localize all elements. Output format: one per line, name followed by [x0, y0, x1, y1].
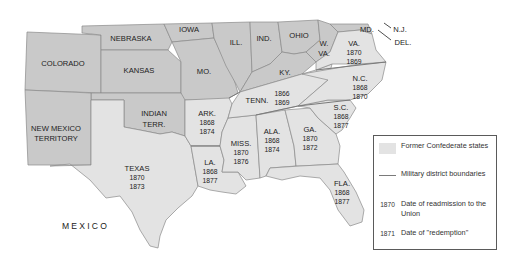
- label-alabama: ALA. 1868 1874: [264, 127, 280, 153]
- svg-text:1868: 1868: [264, 137, 279, 144]
- label-virginia: VA. 1870 1869: [346, 39, 361, 65]
- legend-item-confederate: Former Confederate states: [374, 141, 493, 154]
- svg-text:1869: 1869: [346, 58, 361, 65]
- label-illinois: ILL.: [230, 38, 243, 47]
- svg-text:1868: 1868: [334, 189, 349, 196]
- legend-text: Military district boundaries: [401, 169, 493, 179]
- svg-text:1868: 1868: [333, 113, 348, 120]
- svg-text:1877: 1877: [334, 198, 349, 205]
- svg-text:1870: 1870: [129, 174, 144, 181]
- district-line-sample: [379, 175, 396, 176]
- svg-text:1874: 1874: [264, 146, 279, 153]
- legend-item-redemption: 1871 Date of "redemption": [374, 228, 493, 238]
- svg-text:1877: 1877: [333, 122, 348, 129]
- svg-text:1876: 1876: [233, 158, 248, 165]
- label-new-jersey: N.J.: [393, 25, 407, 34]
- svg-text:1868: 1868: [202, 168, 217, 175]
- legend-text: Date of readmission to the Union: [401, 199, 493, 219]
- label-mississippi: MISS. 1870 1876: [231, 139, 252, 165]
- svg-text:1874: 1874: [199, 128, 214, 135]
- legend-key-year: 1870: [380, 201, 395, 208]
- svg-text:FLA.: FLA.: [334, 179, 350, 188]
- label-florida: FLA. 1868 1877: [334, 179, 350, 205]
- svg-text:1870: 1870: [302, 135, 317, 142]
- svg-text:1868: 1868: [352, 84, 367, 91]
- svg-text:1870: 1870: [346, 49, 361, 56]
- label-mexico: MEXICO: [62, 221, 109, 231]
- svg-text:1872: 1872: [302, 144, 317, 151]
- svg-text:1870: 1870: [352, 93, 367, 100]
- label-indiana: IND.: [256, 34, 271, 43]
- label-maryland: MD.: [360, 25, 374, 34]
- legend-item-district: Military district boundaries: [374, 169, 493, 179]
- svg-text:TENN.: TENN.: [246, 96, 269, 105]
- map-legend: Former Confederate states Military distr…: [373, 135, 497, 250]
- label-new-mexico-2: TERRITORY: [34, 134, 78, 143]
- legend-item-readmission: 1870 Date of readmission to the Union: [374, 199, 493, 219]
- svg-text:N.C.: N.C.: [352, 74, 367, 83]
- label-west-virginia-2: VA.: [318, 49, 330, 58]
- label-georgia: GA. 1870 1872: [302, 125, 317, 151]
- label-arkansas: ARK. 1868 1874: [198, 109, 216, 135]
- svg-text:LA.: LA.: [204, 158, 215, 167]
- svg-text:GA.: GA.: [303, 125, 316, 134]
- confederate-swatch: [379, 143, 396, 154]
- svg-text:1877: 1877: [202, 177, 217, 184]
- label-kansas: KANSAS: [124, 66, 155, 75]
- label-missouri: MO.: [197, 67, 211, 76]
- label-indian-territory-2: TERR.: [143, 120, 166, 129]
- label-south-carolina: S.C. 1868 1877: [333, 103, 348, 129]
- svg-text:1870: 1870: [233, 149, 248, 156]
- label-indian-territory-1: INDIAN: [141, 109, 167, 118]
- svg-text:MISS.: MISS.: [231, 139, 252, 148]
- legend-text: Date of "redemption": [401, 228, 493, 238]
- label-north-carolina: N.C. 1868 1870: [352, 74, 367, 100]
- label-nebraska: NEBRASKA: [110, 34, 152, 43]
- label-new-mexico-1: NEW MEXICO: [31, 124, 81, 133]
- label-iowa: IOWA: [179, 25, 200, 34]
- label-ohio: OHIO: [289, 31, 309, 40]
- legend-text: Former Confederate states: [401, 141, 493, 151]
- label-delaware: DEL.: [395, 38, 412, 47]
- svg-text:1873: 1873: [129, 183, 144, 190]
- label-colorado: COLORADO: [41, 59, 85, 68]
- label-louisiana: LA. 1868 1877: [202, 158, 217, 184]
- svg-text:VA.: VA.: [348, 39, 360, 48]
- svg-text:ARK.: ARK.: [198, 109, 216, 118]
- label-kentucky: KY.: [279, 68, 290, 77]
- svg-text:S.C.: S.C.: [334, 103, 349, 112]
- svg-text:TEXAS: TEXAS: [125, 164, 150, 173]
- legend-key-year: 1871: [380, 230, 395, 237]
- label-west-virginia-1: W.: [320, 39, 329, 48]
- svg-text:1866: 1866: [274, 90, 289, 97]
- svg-text:1868: 1868: [199, 119, 214, 126]
- svg-text:ALA.: ALA.: [264, 127, 280, 136]
- svg-text:1869: 1869: [274, 99, 289, 106]
